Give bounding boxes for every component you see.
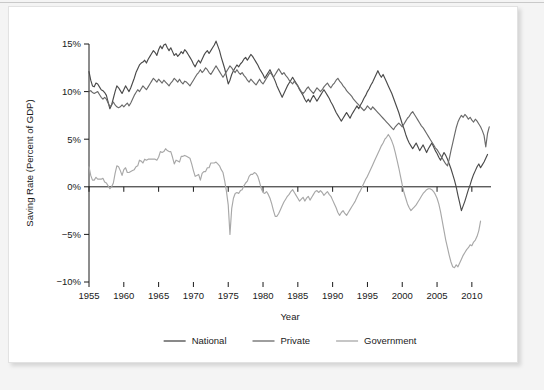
y-tick-label-0: 0% — [67, 181, 81, 192]
series-line-private — [89, 66, 489, 166]
x-tick-label-2010: 2010 — [461, 290, 482, 301]
x-tick-label-1990: 1990 — [322, 290, 343, 301]
x-tick-label-1980: 1980 — [252, 290, 273, 301]
x-axis-title: Year — [280, 311, 299, 322]
y-tick-label--5: −5% — [62, 229, 82, 240]
y-tick-label-5: 5% — [67, 134, 81, 145]
x-tick-label-1995: 1995 — [357, 290, 378, 301]
x-tick-label-1985: 1985 — [287, 290, 308, 301]
legend-label-government: Government — [364, 335, 417, 346]
x-tick-label-1975: 1975 — [218, 290, 239, 301]
x-tick-label-1965: 1965 — [148, 290, 169, 301]
legend-label-private: Private — [281, 335, 311, 346]
x-tick-label-2005: 2005 — [426, 290, 447, 301]
figure-card: −10%−5%0%5%10%15%19551960196519701975198… — [8, 6, 518, 363]
screenshot-page: −10%−5%0%5%10%15%19551960196519701975198… — [0, 0, 544, 390]
series-line-national — [89, 41, 488, 210]
y-tick-label-10: 10% — [62, 86, 82, 97]
top-rule — [0, 2, 544, 3]
y-axis-title: Saving Rate (Percent of GDP) — [24, 99, 35, 226]
legend-label-national: National — [192, 335, 227, 346]
saving-rate-line-chart: −10%−5%0%5%10%15%19551960196519701975198… — [9, 7, 517, 362]
y-tick-label-15: 15% — [62, 38, 82, 49]
x-tick-label-1955: 1955 — [78, 290, 99, 301]
x-tick-label-1960: 1960 — [113, 290, 134, 301]
chart-container: −10%−5%0%5%10%15%19551960196519701975198… — [9, 7, 517, 362]
x-tick-label-1970: 1970 — [183, 290, 204, 301]
y-tick-label--10: −10% — [56, 276, 81, 287]
x-tick-label-2000: 2000 — [392, 290, 413, 301]
series-line-government — [89, 134, 481, 267]
